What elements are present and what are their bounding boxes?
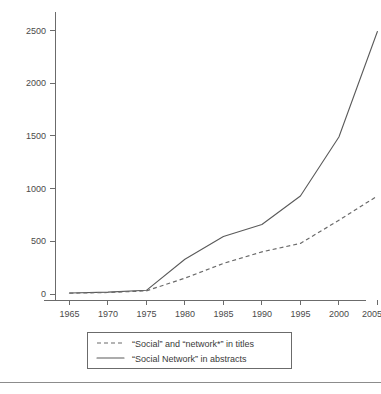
y-tick-label: 2500 — [26, 26, 46, 36]
y-tick-label: 1000 — [26, 184, 46, 194]
y-tick-label: 1500 — [26, 131, 46, 141]
x-tick-label: 2000 — [329, 309, 349, 319]
x-tick-label: 1965 — [59, 309, 79, 319]
x-tick-label: 1995 — [290, 309, 310, 319]
y-axis-tick-labels: 2500 2000 1500 1000 500 0 — [26, 26, 46, 300]
figure-container: 2500 2000 1500 1000 500 0 1965 1970 1975… — [0, 0, 381, 394]
series-line-social-network-abstracts — [69, 32, 377, 293]
legend: “Social” and “network*” in titles “Socia… — [88, 333, 292, 369]
y-tick-label: 2000 — [26, 78, 46, 88]
y-tick-label: 500 — [31, 236, 46, 246]
x-tick-label: 2005 — [362, 309, 381, 319]
x-tick-label: 1990 — [252, 309, 272, 319]
x-axis-tick-labels: 1965 1970 1975 1980 1985 1990 1995 2000 … — [59, 309, 381, 319]
series-line-social-network-titles — [69, 196, 377, 293]
legend-label-abstracts: “Social Network” in abstracts — [132, 354, 247, 364]
y-axis-ticks — [50, 31, 55, 295]
y-tick-label: 0 — [41, 289, 46, 299]
x-tick-label: 1975 — [136, 309, 156, 319]
legend-label-titles: “Social” and “network*” in titles — [132, 339, 255, 349]
x-tick-label: 1970 — [98, 309, 118, 319]
x-tick-label: 1980 — [175, 309, 195, 319]
line-chart: 2500 2000 1500 1000 500 0 1965 1970 1975… — [0, 0, 381, 394]
x-tick-label: 1985 — [213, 309, 233, 319]
